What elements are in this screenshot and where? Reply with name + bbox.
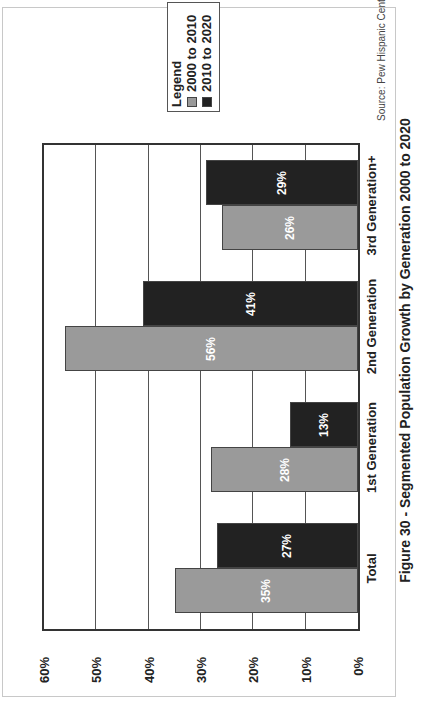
bar-value-label: 27% bbox=[280, 525, 294, 568]
legend-title: Legend bbox=[170, 7, 184, 107]
legend: Legend 2000 to 2010 2010 to 2020 bbox=[167, 2, 220, 112]
legend-item-2000-2010: 2000 to 2010 bbox=[184, 7, 199, 107]
x-category-label: Total bbox=[364, 553, 379, 583]
bar-3rd-generation--2000-to-2010: 26% bbox=[222, 206, 358, 251]
bar-value-label: 28% bbox=[278, 449, 292, 492]
legend-label: 2010 to 2020 bbox=[199, 15, 214, 92]
legend-item-2010-2020: 2010 to 2020 bbox=[199, 7, 214, 107]
chart-title: Figure 30 - Segmented Population Growth … bbox=[397, 0, 413, 701]
bar-value-label: 41% bbox=[244, 283, 258, 326]
bar-value-label: 13% bbox=[317, 404, 331, 447]
y-tick-label: 40% bbox=[141, 657, 156, 697]
bar-total-2010-to-2020: 27% bbox=[217, 524, 358, 569]
gridline bbox=[200, 145, 201, 629]
bar-value-label: 26% bbox=[283, 207, 297, 250]
x-category-label: 3rd Generation+ bbox=[364, 155, 379, 255]
legend-swatch-light-icon bbox=[187, 97, 197, 107]
gridline bbox=[148, 145, 149, 629]
bar-value-label: 56% bbox=[204, 328, 218, 371]
bar-2nd-generation-2010-to-2020: 41% bbox=[143, 282, 358, 327]
gridline bbox=[95, 145, 96, 629]
bar-1st-generation-2010-to-2020: 13% bbox=[290, 403, 358, 448]
bar-value-label: 35% bbox=[259, 570, 273, 613]
legend-label: 2000 to 2010 bbox=[184, 15, 199, 92]
x-category-label: 2nd Generation bbox=[364, 279, 379, 374]
y-tick-label: 50% bbox=[89, 657, 104, 697]
bar-3rd-generation--2010-to-2020: 29% bbox=[206, 161, 358, 206]
y-tick-label: 20% bbox=[246, 657, 261, 697]
chart-canvas: 0%10%20%30%40%50%60% 35%27%28%13%56%41%2… bbox=[0, 0, 421, 701]
plot-area: 35%27%28%13%56%41%26%29% bbox=[42, 143, 360, 631]
bar-value-label: 29% bbox=[275, 162, 289, 205]
y-tick-label: 60% bbox=[37, 657, 52, 697]
source-note: Source: Pew Hispanic Center bbox=[376, 0, 387, 121]
y-tick-label: 30% bbox=[194, 657, 209, 697]
y-tick-label: 10% bbox=[298, 657, 313, 697]
bar-total-2000-to-2010: 35% bbox=[175, 569, 358, 614]
bar-2nd-generation-2000-to-2010: 56% bbox=[65, 327, 358, 372]
y-tick-label: 0% bbox=[351, 657, 366, 697]
bar-1st-generation-2000-to-2010: 28% bbox=[211, 448, 358, 493]
legend-swatch-dark-icon bbox=[202, 97, 212, 107]
x-category-label: 1st Generation bbox=[364, 402, 379, 493]
